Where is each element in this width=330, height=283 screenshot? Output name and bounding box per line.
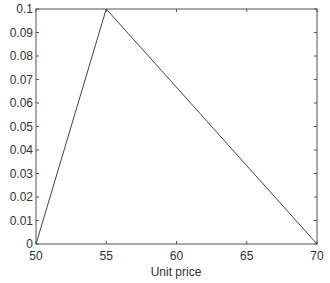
y-tick-label: 0.01 <box>10 214 34 228</box>
y-tick-label: 0.08 <box>10 49 34 63</box>
y-tick-label: 0.06 <box>10 96 34 110</box>
y-tick-label: 0.09 <box>10 26 34 40</box>
x-tick-label: 65 <box>240 249 254 263</box>
x-tick-label: 55 <box>100 249 114 263</box>
x-axis-ticks: 5055606570 <box>29 9 324 263</box>
line-chart: 00.010.020.030.040.050.060.070.080.090.1… <box>0 0 330 283</box>
y-tick-label: 0.04 <box>10 143 34 157</box>
y-tick-label: 0.03 <box>10 167 34 181</box>
plot-area-frame <box>36 9 317 244</box>
x-axis-label: Unit price <box>151 265 202 279</box>
y-tick-label: 0.02 <box>10 190 34 204</box>
y-tick-label: 0.05 <box>10 120 34 134</box>
data-line <box>36 9 317 244</box>
x-tick-label: 70 <box>310 249 324 263</box>
x-tick-label: 60 <box>170 249 184 263</box>
y-tick-label: 0.1 <box>16 2 33 16</box>
x-tick-label: 50 <box>29 249 43 263</box>
y-tick-label: 0.07 <box>10 73 34 87</box>
chart-container: 00.010.020.030.040.050.060.070.080.090.1… <box>0 0 330 283</box>
y-axis-ticks: 00.010.020.030.040.050.060.070.080.090.1 <box>10 2 317 251</box>
